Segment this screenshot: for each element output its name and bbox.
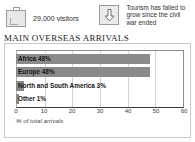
chart-bar-label: North and South America 3% bbox=[18, 81, 106, 91]
chart-bars: Africa 48%Europe 48%North and South Amer… bbox=[16, 50, 184, 108]
chart-bar-row: Europe 48% bbox=[16, 67, 184, 77]
chart-bar-label: Europe 48% bbox=[18, 67, 55, 77]
chart-x-axis: 0102030405060 bbox=[16, 108, 184, 117]
x-axis-tick: 20 bbox=[69, 108, 76, 114]
chart-bar-label: Africa 48% bbox=[18, 54, 51, 64]
chart-panel: Africa 48%Europe 48%North and South Amer… bbox=[4, 43, 191, 138]
chart-x-axis-label: % of total arrivals bbox=[16, 117, 63, 124]
chart-plot-area: Africa 48%Europe 48%North and South Amer… bbox=[16, 50, 184, 108]
page-title: MAIN OVERSEAS ARRIVALS bbox=[0, 30, 195, 43]
key-facts-row: 29,000 visitors Tourism has failed to gr… bbox=[0, 0, 195, 30]
fact-trend: Tourism has failed to grow since the civ… bbox=[99, 4, 192, 26]
x-axis-tick: 10 bbox=[41, 108, 48, 114]
suitcase-icon bbox=[4, 8, 26, 30]
x-axis-tick: 30 bbox=[97, 108, 104, 114]
fact-visitors-label: 29,000 visitors bbox=[26, 15, 79, 22]
chart-bar-label: Other 1% bbox=[18, 94, 46, 104]
x-axis-tick: 40 bbox=[125, 108, 132, 114]
x-axis-tick: 50 bbox=[153, 108, 160, 114]
x-axis-tick: 60 bbox=[181, 108, 188, 114]
x-axis-tick: 0 bbox=[14, 108, 17, 114]
fact-visitors: 29,000 visitors bbox=[4, 4, 99, 30]
down-arrow-icon bbox=[99, 4, 121, 26]
chart-bar-row: Africa 48% bbox=[16, 54, 184, 64]
fact-trend-label: Tourism has failed to grow since the civ… bbox=[121, 4, 192, 26]
chart-bar-row: North and South America 3% bbox=[16, 81, 184, 91]
chart-bar-row: Other 1% bbox=[16, 94, 184, 104]
